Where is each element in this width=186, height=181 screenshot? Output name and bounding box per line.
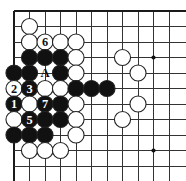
white-stone[interactable]: 2 [6,80,22,96]
stone-disc [68,96,84,112]
star-point [151,55,155,59]
letter-marker: A [40,66,50,80]
move-number-label: 3 [26,82,32,96]
white-stone[interactable] [21,96,37,112]
black-stone[interactable] [21,65,37,81]
stone-disc [21,142,37,158]
diagram-caption [0,173,186,181]
white-stone[interactable] [114,111,130,127]
black-stone[interactable]: 1 [6,96,22,112]
stone-disc [83,80,99,96]
stone-disc [37,49,53,65]
black-stone[interactable] [52,49,68,65]
white-stone[interactable] [6,111,22,127]
white-stone[interactable] [68,111,84,127]
stone-disc [68,127,84,143]
stone-disc [37,80,53,96]
black-stone[interactable]: 5 [21,111,37,127]
stone-disc [6,111,22,127]
stone-disc [68,80,84,96]
white-stone[interactable] [52,34,68,50]
black-stone[interactable] [37,49,53,65]
black-stone[interactable]: 3 [21,80,37,96]
stone-disc [52,80,68,96]
white-stone[interactable] [130,96,146,112]
stone-disc [99,80,115,96]
black-stone[interactable] [6,65,22,81]
stone-disc [52,34,68,50]
white-stone[interactable]: 6 [37,34,53,50]
white-stone[interactable] [21,142,37,158]
black-stone[interactable]: 7 [37,96,53,112]
stone-disc [21,65,37,81]
white-stone[interactable] [68,127,84,143]
black-stone[interactable] [37,111,53,127]
white-stone[interactable] [52,80,68,96]
stone-disc [114,111,130,127]
black-stone[interactable] [52,65,68,81]
stone-disc [21,49,37,65]
white-stone[interactable] [68,96,84,112]
stone-disc [114,49,130,65]
stone-disc [21,127,37,143]
white-stone[interactable] [68,65,84,81]
stone-disc [68,65,84,81]
stone-disc [21,34,37,50]
white-stone[interactable] [21,18,37,34]
stone-disc [37,127,53,143]
white-stone[interactable] [68,34,84,50]
black-stone[interactable] [83,80,99,96]
white-stone[interactable] [37,80,53,96]
black-stone[interactable] [99,80,115,96]
stone-disc [130,96,146,112]
stone-disc [52,96,68,112]
stone-disc [6,127,22,143]
white-stone[interactable] [114,49,130,65]
stone-disc [52,49,68,65]
move-number-label: 5 [26,113,32,127]
stone-disc [21,18,37,34]
stone-disc [52,142,68,158]
white-stone[interactable] [37,142,53,158]
stone-disc [68,49,84,65]
black-stone[interactable] [6,127,22,143]
black-stone[interactable] [21,49,37,65]
black-stone[interactable] [52,111,68,127]
move-number-label: 7 [42,97,48,111]
stone-disc [52,111,68,127]
white-stone[interactable] [21,34,37,50]
white-stone[interactable] [68,49,84,65]
stone-disc [6,65,22,81]
white-stone[interactable] [52,142,68,158]
black-stone[interactable] [52,96,68,112]
stone-disc [37,111,53,127]
move-number-label: 1 [11,97,17,111]
black-stone[interactable] [68,80,84,96]
stone-disc [21,96,37,112]
go-board[interactable]: 623175 A [0,0,186,181]
star-point [151,148,155,152]
stone-disc [52,65,68,81]
black-stone[interactable] [37,127,53,143]
stone-disc [68,34,84,50]
move-number-label: 6 [42,35,48,49]
go-diagram: 623175 A [0,0,186,181]
stone-disc [68,111,84,127]
markers-layer: A [40,66,50,80]
white-stone[interactable] [130,65,146,81]
move-number-label: 2 [11,82,17,96]
stone-disc [37,142,53,158]
stone-disc [130,65,146,81]
black-stone[interactable] [21,127,37,143]
